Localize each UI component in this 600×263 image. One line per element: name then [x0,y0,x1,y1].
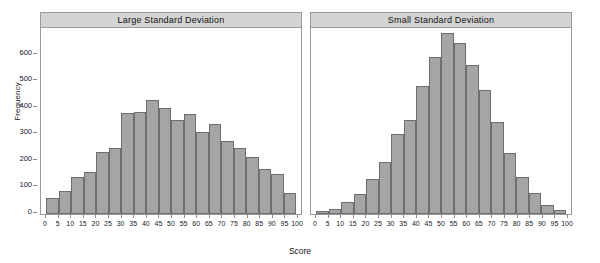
histogram-figure: Frequency 0100200300400500600 Large Stan… [0,0,600,263]
y-tick-mark [33,132,37,133]
histogram-bar [379,162,392,214]
histogram-bar [259,169,272,214]
x-tick-mark [45,215,46,218]
histogram-bar [196,132,209,214]
y-tick-mark [33,159,37,160]
histogram-bar [121,113,134,214]
y-tick-label: 400 [19,102,32,110]
x-tick-mark [184,215,185,218]
y-tick-mark [33,212,37,213]
x-tick-mark [83,215,84,218]
x-tick-mark [365,215,366,218]
x-tick-mark [121,215,122,218]
histogram-bar [59,191,72,214]
histogram-bar [284,193,297,214]
x-tick-mark [108,215,109,218]
x-tick-mark [171,215,172,218]
x-tick-mark [315,215,316,218]
y-tick-mark [33,185,37,186]
histogram-bar [271,174,284,214]
y-tick-label: 600 [19,49,32,57]
histogram-bar [96,152,109,214]
x-axis-small-sd: 0510152025303540455055606570758085909510… [310,215,572,239]
x-tick-mark [158,215,159,218]
x-tick-label: 100 [287,220,307,228]
x-tick-mark [479,215,480,218]
histogram-bar [404,120,417,214]
y-tick-label: 300 [19,128,32,136]
histogram-bar [134,112,147,214]
histogram-bar [479,90,492,214]
histogram-bar [109,148,122,214]
x-tick-mark [491,215,492,218]
histogram-bar [184,114,197,214]
histogram-bar [554,210,567,214]
panel-strip-large-sd: Large Standard Deviation [41,13,301,28]
x-tick-mark [133,215,134,218]
histogram-bar [329,209,342,214]
y-tick-mark [33,106,37,107]
histogram-bar [84,172,97,215]
bar-series-small-sd [316,28,566,214]
histogram-bar [454,43,467,214]
histogram-bar [541,205,554,214]
x-tick-mark [95,215,96,218]
panel-title-large-sd: Large Standard Deviation [41,13,301,28]
x-tick-mark [466,215,467,218]
x-tick-mark [416,215,417,218]
histogram-bar [316,211,329,214]
x-tick-mark [328,215,329,218]
y-tick-label: 0 [28,208,32,216]
x-tick-mark [247,215,248,218]
y-tick-label: 100 [19,181,32,189]
histogram-bar [209,124,222,214]
histogram-bar [466,65,479,214]
histogram-bar [391,134,404,214]
histogram-bar [71,177,84,214]
x-tick-label: 100 [557,220,577,228]
panel-small-sd: Small Standard Deviation [310,12,572,215]
plot-area-large-sd [41,28,301,214]
x-tick-mark [209,215,210,218]
y-tick-mark [33,53,37,54]
histogram-bar [354,194,367,214]
x-tick-mark [234,215,235,218]
histogram-bar [221,141,234,214]
x-tick-mark [391,215,392,218]
x-tick-mark [297,215,298,218]
histogram-bar [159,108,172,214]
histogram-bar [416,86,429,214]
x-tick-mark [378,215,379,218]
x-tick-mark [517,215,518,218]
histogram-bar [516,177,529,214]
histogram-bar [341,202,354,214]
x-tick-mark [428,215,429,218]
histogram-bar [429,57,442,214]
x-tick-mark [554,215,555,218]
x-tick-mark [567,215,568,218]
x-tick-mark [284,215,285,218]
y-tick-label: 200 [19,155,32,163]
x-tick-mark [403,215,404,218]
x-tick-mark [259,215,260,218]
panel-large-sd: Large Standard Deviation [40,12,302,215]
x-tick-mark [70,215,71,218]
histogram-bar [246,157,259,214]
bar-series-large-sd [46,28,296,214]
y-tick-label: 500 [19,75,32,83]
panel-strip-small-sd: Small Standard Deviation [311,13,571,28]
x-tick-mark [542,215,543,218]
x-tick-mark [146,215,147,218]
y-tick-mark [33,79,37,80]
x-tick-mark [340,215,341,218]
x-tick-mark [529,215,530,218]
histogram-bar [171,120,184,214]
x-tick-mark [441,215,442,218]
x-tick-mark [454,215,455,218]
histogram-bar [441,33,454,214]
x-tick-mark [504,215,505,218]
panel-title-small-sd: Small Standard Deviation [311,13,571,28]
histogram-bar [234,148,247,214]
histogram-bar [366,179,379,214]
histogram-bar [491,122,504,214]
